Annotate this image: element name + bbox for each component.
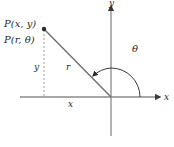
- angle-arc: [93, 68, 140, 97]
- point-p: [42, 27, 46, 31]
- point-label-rectangular: P(x, y): [3, 18, 36, 29]
- polar-coordinates-diagram: P(x, y) P(r, θ) y r x θ x y: [0, 0, 174, 147]
- radius-label: r: [66, 62, 71, 72]
- vertical-leg-label: y: [33, 62, 40, 72]
- radius-line: [44, 29, 111, 97]
- angle-label: θ: [132, 43, 138, 54]
- x-axis-label: x: [164, 92, 169, 102]
- horizontal-leg-label: x: [68, 99, 73, 109]
- point-label-polar: P(r, θ): [3, 34, 35, 45]
- y-axis-label: y: [108, 0, 115, 8]
